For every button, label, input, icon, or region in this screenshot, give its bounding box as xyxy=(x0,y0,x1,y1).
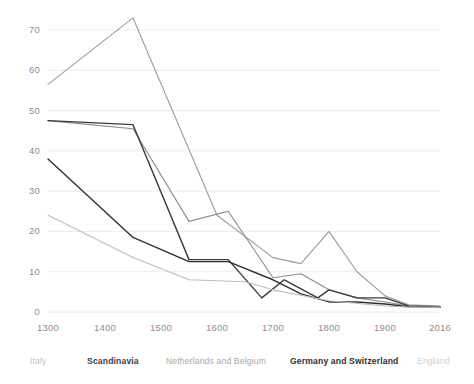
series-lines xyxy=(48,18,440,307)
x-tick-label: 2016 xyxy=(420,322,460,333)
x-tick-label: 1500 xyxy=(141,322,181,333)
y-tick-label: 60 xyxy=(14,64,40,75)
line-chart: 010203040506070 130014001500160017001800… xyxy=(0,0,474,384)
series-line-germany-and-switzerland xyxy=(48,159,440,307)
x-tick-label: 1900 xyxy=(365,322,405,333)
legend-item-scandinavia[interactable]: Scandinavia xyxy=(87,356,139,366)
gridlines xyxy=(48,30,440,312)
legend-item-germany-and-switzerland[interactable]: Germany and Switzerland xyxy=(290,356,399,366)
series-line-italy xyxy=(48,215,440,307)
legend-item-italy[interactable]: Italy xyxy=(30,356,47,366)
series-line-england xyxy=(48,18,440,306)
y-tick-label: 20 xyxy=(14,225,40,236)
legend-item-england[interactable]: England xyxy=(417,356,450,366)
x-tick-label: 1700 xyxy=(253,322,293,333)
chart-legend: ItalyScandinaviaNetherlands and BelgiumG… xyxy=(0,352,474,372)
x-tick-label: 1400 xyxy=(85,322,125,333)
x-tick-label: 1300 xyxy=(28,322,68,333)
y-tick-label: 10 xyxy=(14,266,40,277)
y-tick-label: 70 xyxy=(14,24,40,35)
legend-item-netherlands-and-belgium[interactable]: Netherlands and Belgium xyxy=(166,356,266,366)
x-tick-label: 1800 xyxy=(309,322,349,333)
y-tick-label: 50 xyxy=(14,105,40,116)
y-tick-label: 40 xyxy=(14,145,40,156)
y-tick-label: 0 xyxy=(14,306,40,317)
x-tick-label: 1600 xyxy=(197,322,237,333)
y-tick-label: 30 xyxy=(14,185,40,196)
